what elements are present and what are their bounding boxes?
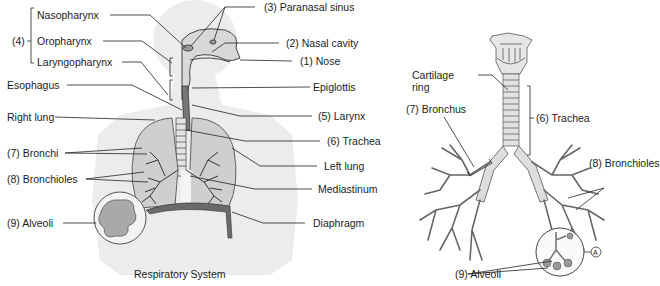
label-cartilage-ring-line1: Cartilage xyxy=(412,69,454,81)
label-right-lung: Right lung xyxy=(7,111,54,123)
label-larynx: (5) Larynx xyxy=(318,110,365,122)
label-epiglottis: Epiglottis xyxy=(313,81,356,93)
right-alveoli-magnifier xyxy=(536,228,584,276)
label-paranasal-sinus: (3) Paranasal sinus xyxy=(264,1,354,13)
label-left-lung: Left lung xyxy=(324,160,364,172)
label-oropharynx: Oropharynx xyxy=(37,35,92,47)
right-trachea xyxy=(503,74,519,146)
label-diaphragm: Diaphragm xyxy=(313,217,364,229)
label-bronchioles: (8) Bronchioles xyxy=(7,173,78,185)
label-bronchi: (7) Bronchi xyxy=(7,147,58,159)
label-trachea-right: (6) Trachea xyxy=(536,112,590,124)
label-mediastinum: Mediastinum xyxy=(318,183,378,195)
label-bronchus: (7) Bronchus xyxy=(406,103,466,115)
label-alveoli-right: (9) Alveoli xyxy=(455,268,501,280)
mediastinum-shape xyxy=(181,170,191,208)
label-bronchioles-right: (8) Bronchioles xyxy=(589,157,660,169)
label-nasal-cavity: (2) Nasal cavity xyxy=(286,37,358,49)
label-nasopharynx: Nasopharynx xyxy=(37,9,99,21)
label-esophagus: Esophagus xyxy=(7,79,60,91)
marker-a-label: A xyxy=(593,249,598,256)
label-pharynx-group: (4) xyxy=(12,35,25,47)
label-trachea: (6) Trachea xyxy=(327,135,381,147)
label-alveoli: (9) Alveoli xyxy=(7,217,53,229)
label-nose: (1) Nose xyxy=(300,55,340,67)
label-cartilage-ring-line2: ring xyxy=(412,81,430,93)
alveoli-magnifier xyxy=(94,192,146,244)
caption-respiratory-system: Respiratory System xyxy=(134,268,226,280)
label-laryngopharynx: Laryngopharynx xyxy=(37,56,112,68)
right-primary-bronchi xyxy=(476,146,548,202)
right-larynx xyxy=(490,33,532,74)
